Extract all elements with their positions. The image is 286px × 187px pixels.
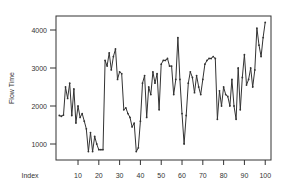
data-point-marker — [137, 147, 139, 149]
data-point-marker — [202, 79, 204, 81]
data-point-marker — [264, 22, 266, 24]
data-point-marker — [260, 56, 262, 58]
x-tick-label: 30 — [116, 172, 124, 179]
data-point-marker — [119, 71, 121, 73]
data-point-marker — [131, 126, 133, 128]
data-point-marker — [106, 65, 108, 67]
data-point-marker — [187, 82, 189, 84]
data-point-marker — [63, 114, 65, 116]
data-point-marker — [192, 77, 194, 79]
data-point-marker — [185, 115, 187, 117]
x-tick-label: 50 — [157, 172, 165, 179]
data-point-marker — [79, 117, 81, 119]
y-axis: 1000200030004000 — [31, 27, 56, 148]
data-point-marker — [175, 79, 177, 81]
data-point-marker — [246, 84, 248, 86]
data-point-marker — [102, 149, 104, 151]
data-point-marker — [88, 151, 90, 153]
data-point-marker — [125, 107, 127, 109]
x-axis-label: Index — [21, 172, 39, 179]
data-point-marker — [71, 115, 73, 117]
data-point-marker — [216, 118, 218, 120]
data-point-marker — [69, 82, 71, 84]
data-point-marker — [167, 58, 169, 60]
data-point-marker — [196, 75, 198, 77]
line-chart: 1000200030004000 102030405060708090100 F… — [0, 0, 286, 187]
data-point-marker — [200, 94, 202, 96]
data-point-marker — [160, 63, 162, 65]
x-tick-label: 90 — [241, 172, 249, 179]
data-point-marker — [123, 109, 125, 111]
data-point-marker — [83, 120, 85, 122]
data-point-marker — [204, 63, 206, 65]
data-point-marker — [115, 48, 117, 50]
data-point-marker — [239, 109, 241, 111]
data-point-marker — [129, 117, 131, 119]
data-point-marker — [133, 122, 135, 124]
y-tick-label: 1000 — [31, 141, 47, 148]
x-axis: 102030405060708090100 — [74, 160, 271, 179]
y-tick-label: 4000 — [31, 27, 47, 34]
data-point-marker — [148, 86, 150, 88]
data-point-marker — [162, 60, 164, 62]
data-point-marker — [112, 56, 114, 58]
data-point-marker — [221, 105, 223, 107]
x-tick-label: 20 — [95, 172, 103, 179]
data-point-marker — [262, 37, 264, 39]
data-point-marker — [237, 67, 239, 69]
data-point-marker — [171, 65, 173, 67]
data-point-marker — [127, 113, 129, 115]
data-point-marker — [225, 94, 227, 96]
data-point-marker — [198, 86, 200, 88]
data-point-marker — [142, 82, 144, 84]
data-point-marker — [206, 60, 208, 62]
data-point-marker — [144, 75, 146, 77]
data-point-marker — [100, 149, 102, 151]
data-point-marker — [164, 60, 166, 62]
data-point-marker — [183, 143, 185, 145]
data-point-marker — [244, 54, 246, 56]
data-series — [58, 22, 266, 153]
data-point-marker — [256, 27, 258, 29]
data-point-marker — [150, 94, 152, 96]
data-point-marker — [241, 77, 243, 79]
data-point-marker — [181, 113, 183, 115]
data-point-marker — [58, 115, 60, 117]
data-point-marker — [210, 58, 212, 60]
data-point-marker — [258, 44, 260, 46]
data-point-marker — [94, 136, 96, 138]
y-tick-label: 2000 — [31, 103, 47, 110]
data-point-marker — [85, 128, 87, 130]
data-point-marker — [194, 92, 196, 94]
data-point-marker — [173, 94, 175, 96]
data-point-marker — [65, 86, 67, 88]
data-point-marker — [140, 120, 142, 122]
x-tick-label: 70 — [199, 172, 207, 179]
x-tick-label: 60 — [178, 172, 186, 179]
data-point-marker — [177, 37, 179, 39]
data-point-marker — [77, 105, 79, 107]
data-point-marker — [90, 132, 92, 134]
x-tick-label: 100 — [259, 172, 271, 179]
data-point-marker — [73, 88, 75, 90]
data-point-marker — [154, 82, 156, 84]
data-point-marker — [96, 143, 98, 145]
data-point-marker — [233, 105, 235, 107]
x-tick-label: 80 — [220, 172, 228, 179]
data-point-marker — [67, 98, 69, 100]
x-tick-label: 10 — [74, 172, 82, 179]
data-point-marker — [231, 79, 233, 81]
data-point-marker — [219, 90, 221, 92]
data-point-marker — [252, 86, 254, 88]
data-point-marker — [108, 52, 110, 54]
y-axis-label: Flow Time — [8, 72, 15, 104]
data-point-marker — [110, 69, 112, 71]
data-point-marker — [81, 113, 83, 115]
data-point-marker — [235, 118, 237, 120]
data-point-marker — [158, 109, 160, 111]
data-point-marker — [169, 65, 171, 67]
data-point-marker — [214, 58, 216, 60]
data-point-marker — [104, 60, 106, 62]
data-point-marker — [212, 56, 214, 58]
data-point-marker — [179, 79, 181, 81]
